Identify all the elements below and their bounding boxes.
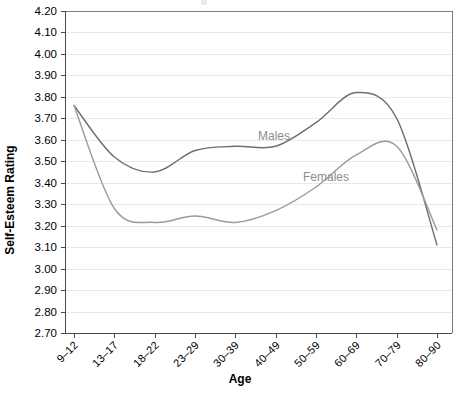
series-label-females: Females: [303, 170, 349, 184]
y-tick-label: 3.20: [35, 220, 57, 232]
y-tick-label: 3.50: [35, 155, 57, 167]
x-tick-label: 9–12: [54, 339, 80, 365]
y-tick-label: 2.70: [35, 327, 57, 339]
x-tick-label: 23–29: [171, 339, 201, 369]
x-tick-label: 30–39: [211, 339, 241, 369]
y-tick-label: 3.30: [35, 198, 57, 210]
x-axis-title: Age: [229, 372, 252, 386]
y-tick-label: 3.80: [35, 91, 57, 103]
y-tick-label: 3.70: [35, 112, 57, 124]
y-tick-label: 4.10: [35, 26, 57, 38]
y-axis-title: Self-Esteem Rating: [3, 145, 17, 254]
y-tick-label: 4.20: [35, 5, 57, 17]
y-tick-label: 3.90: [35, 69, 57, 81]
series-lines: [74, 92, 437, 245]
x-tick-label: 80–90: [413, 339, 443, 369]
x-tick-label: 70–79: [373, 339, 403, 369]
series-label-males: Males: [258, 129, 290, 143]
x-tick-label: 40–49: [252, 339, 282, 369]
x-tick-labels: 9–1213–1718–2223–2930–3940–4950–5960–697…: [54, 339, 443, 369]
y-tick-labels: 4.204.104.003.903.803.703.603.503.403.30…: [35, 5, 57, 339]
y-tick-label: 3.00: [35, 263, 57, 275]
chart-container: 4.204.104.003.903.803.703.603.503.403.30…: [0, 0, 458, 395]
x-tick-label: 50–59: [292, 339, 322, 369]
y-tick-label: 2.90: [35, 284, 57, 296]
cropped-title-fragment: [201, 0, 207, 5]
gridlines: [65, 33, 452, 313]
y-tick-label: 3.40: [35, 177, 57, 189]
plot-frame: [65, 11, 452, 333]
x-tick-label: 13–17: [90, 339, 120, 369]
series-line-males: [74, 92, 437, 245]
x-tick-label: 60–69: [332, 339, 362, 369]
y-tick-label: 3.60: [35, 134, 57, 146]
x-tick-label: 18–22: [131, 339, 161, 369]
y-tick-label: 4.00: [35, 48, 57, 60]
y-tick-marks: [61, 12, 65, 334]
x-tick-marks: [75, 333, 438, 338]
series-line-females: [74, 105, 437, 230]
y-tick-label: 3.10: [35, 241, 57, 253]
y-tick-label: 2.80: [35, 306, 57, 318]
self-esteem-by-age-line-chart: 4.204.104.003.903.803.703.603.503.403.30…: [0, 0, 458, 395]
